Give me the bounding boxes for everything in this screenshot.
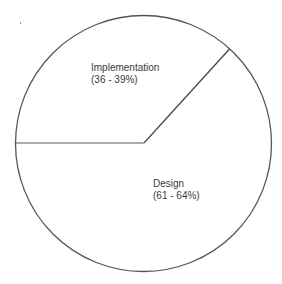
slice-label-design: Design (61 - 64%): [153, 178, 200, 202]
pie-chart: [0, 0, 282, 284]
slice-label-design-range: (61 - 64%): [153, 190, 200, 202]
slice-label-implementation-name: Implementation: [91, 62, 159, 74]
scan-noise-speck: [20, 22, 21, 24]
slice-label-implementation: Implementation (36 - 39%): [91, 62, 159, 86]
slice-label-design-name: Design: [153, 178, 200, 190]
slice-label-implementation-range: (36 - 39%): [91, 74, 159, 86]
